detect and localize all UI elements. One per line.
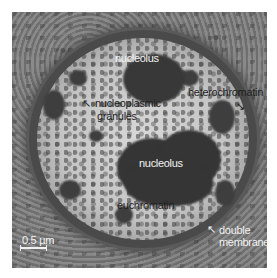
heterochromatin-clump bbox=[59, 180, 81, 200]
heterochromatin-clump bbox=[43, 90, 65, 120]
arrow-icon: ↖ bbox=[82, 98, 91, 109]
label-nucleolus-top: nucleolus bbox=[115, 52, 159, 64]
arrow-icon: ↖ bbox=[207, 224, 216, 235]
heterochromatin-clump bbox=[215, 180, 235, 206]
scale-bar-label: 0.5 µm bbox=[22, 234, 54, 246]
heterochromatin-clump bbox=[209, 100, 235, 134]
label-nucleoplasmic-granules: nucleoplasmic bbox=[95, 97, 161, 109]
label-heterochromatin: heterochromatin bbox=[188, 86, 263, 98]
label-double-membrane-line2: membrane bbox=[219, 236, 269, 248]
arrow-icon: ↘ bbox=[236, 101, 245, 112]
label-nucleolus-center: nucleolus bbox=[139, 157, 183, 169]
heterochromatin-clump bbox=[69, 70, 87, 86]
label-nucleoplasmic-granules-line2: granules bbox=[97, 110, 137, 122]
heterochromatin-clump bbox=[89, 130, 103, 142]
label-euchromatin: euchromatin bbox=[117, 199, 174, 211]
label-double-membrane: double bbox=[219, 224, 250, 236]
scale-bar bbox=[20, 247, 47, 249]
